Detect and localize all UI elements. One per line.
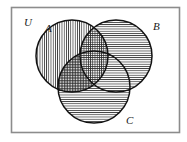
venn-diagram-canvas: U A B C [0,0,187,142]
label-universal-set: U [24,16,33,28]
label-set-c: C [126,114,134,126]
label-set-b: B [153,20,160,32]
label-set-a: A [44,22,52,34]
venn-diagram-figure: U A B C [0,0,187,142]
